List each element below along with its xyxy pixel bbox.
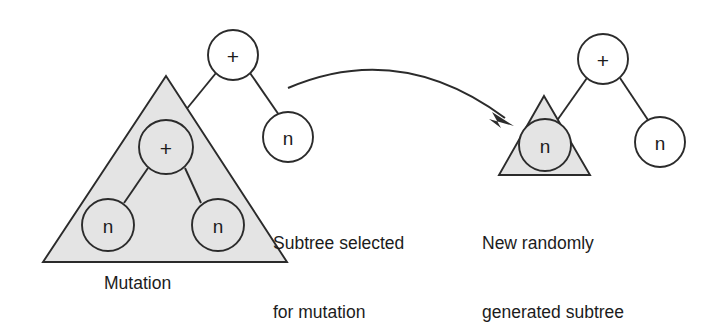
mutation-replacement-arrow bbox=[288, 70, 505, 118]
edge-right-root-to-new-subtree-root bbox=[556, 78, 587, 122]
node-right-tree-root-label: + bbox=[597, 49, 609, 72]
node-selected-subtree-root-label: + bbox=[160, 137, 172, 160]
caption-new-subtree-line-2: generated subtree bbox=[482, 301, 624, 324]
caption-new-subtree-line-1: New randomly bbox=[482, 232, 624, 255]
right-tree-group: n + n bbox=[499, 34, 685, 175]
node-selected-subtree-child-right-label: n bbox=[213, 216, 224, 237]
edge-right-root-to-right-terminal bbox=[620, 78, 648, 120]
node-left-tree-root-label: + bbox=[227, 45, 239, 68]
node-selected-subtree-child-left-label: n bbox=[103, 216, 114, 237]
mutation-replacement-arrow-group bbox=[288, 70, 514, 128]
caption-mutation: Mutation bbox=[104, 272, 171, 295]
caption-new-randomly-generated-subtree: New randomly generated subtree bbox=[482, 186, 624, 326]
node-right-tree-right-terminal-label: n bbox=[655, 133, 666, 154]
caption-subtree-selected-line-1: Subtree selected bbox=[273, 232, 404, 255]
node-left-tree-right-terminal-label: n bbox=[283, 128, 294, 149]
node-new-subtree-root-label: n bbox=[540, 136, 551, 157]
caption-subtree-selected-for-mutation: Subtree selected for mutation bbox=[273, 186, 404, 326]
caption-subtree-selected-line-2: for mutation bbox=[273, 301, 404, 324]
edge-left-root-to-right-terminal bbox=[250, 73, 279, 115]
